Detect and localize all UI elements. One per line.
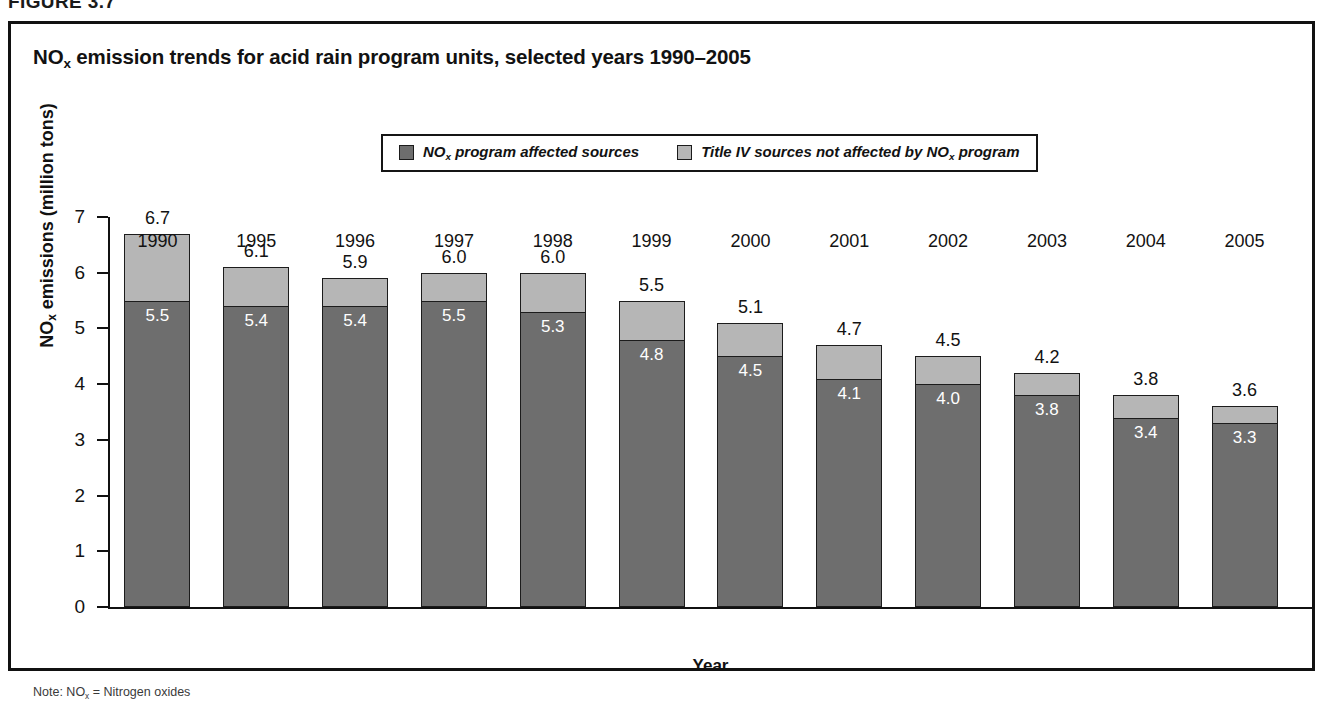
bar-segment-value-label: 5.4 [224,311,288,331]
y-axis-tick-mark [97,550,108,552]
bar-segment-value-label: 3.3 [1213,428,1277,448]
bar-stack[interactable]: 3.4 [1113,395,1179,607]
legend-item-title-iv-sources[interactable]: Title IV sources not affected by NOx pro… [677,143,1019,162]
chart-legend: NOx program affected sources Title IV so… [381,134,1038,172]
bar-segment-title-iv[interactable] [520,273,586,312]
bar-segment-nox-program[interactable]: 5.4 [223,306,289,607]
bar-segment-value-label: 4.8 [620,345,684,365]
legend-swatch-dark-icon [399,145,414,160]
x-axis-tick-label: 2002 [895,231,1001,252]
figure-number: FIGURE 3.7 [8,0,115,13]
bar-segment-nox-program[interactable]: 3.4 [1113,418,1179,607]
chart-title-suffix: emission trends for acid rain program un… [71,45,751,68]
bar-stack[interactable]: 4.5 [717,323,783,607]
legend-label-series-1: NOx program affected sources [423,143,639,162]
bar-segment-title-iv[interactable] [915,356,981,384]
bar-segment-value-label: 4.5 [718,361,782,381]
x-axis-tick-label: 1996 [302,231,408,252]
x-axis-tick-label: 2003 [994,231,1100,252]
legend-swatch-light-icon [677,145,692,160]
legend-item-nox-program-affected-sources[interactable]: NOx program affected sources [399,143,639,162]
bar-stack[interactable]: 4.8 [619,301,685,607]
bar-segment-title-iv[interactable] [1014,373,1080,395]
bar-stack[interactable]: 4.1 [816,345,882,607]
y-axis-tick-label: 6 [23,262,85,284]
bar-segment-nox-program[interactable]: 4.5 [717,356,783,607]
bar-stack[interactable]: 5.3 [520,273,586,607]
bar-group[interactable]: 4.04.52002 [915,217,981,607]
bar-group[interactable]: 4.55.12000 [717,217,783,607]
bar-segment-title-iv[interactable] [322,278,388,306]
bar-segment-title-iv[interactable] [717,323,783,356]
bar-group[interactable]: 3.43.82004 [1113,217,1179,607]
bar-group[interactable]: 5.46.11995 [223,217,289,607]
bar-group[interactable]: 4.14.72001 [816,217,882,607]
bar-stack[interactable]: 3.3 [1212,406,1278,607]
legend-label-series-1-suffix: program affected sources [451,143,639,160]
bar-group[interactable]: 5.56.01997 [421,217,487,607]
bar-total-label: 3.8 [1097,369,1195,390]
bar-segment-nox-program[interactable]: 4.1 [816,379,882,607]
bar-segment-title-iv[interactable] [619,301,685,340]
bar-group[interactable]: 4.85.51999 [619,217,685,607]
legend-label-series-2-suffix: program [954,143,1019,160]
bar-group[interactable]: 3.33.62005 [1212,217,1278,607]
bar-segment-value-label: 3.8 [1015,400,1079,420]
bar-segment-nox-program[interactable]: 4.8 [619,340,685,607]
bar-segment-value-label: 5.5 [125,306,189,326]
bar-segment-value-label: 5.4 [323,311,387,331]
y-axis-tick-label: 0 [23,596,85,618]
bar-segment-nox-program[interactable]: 5.5 [421,301,487,607]
chart-title-subscript: x [63,56,70,71]
y-axis-tick-label: 3 [23,429,85,451]
bar-segment-title-iv[interactable] [223,267,289,306]
bar-total-label: 4.2 [998,347,1096,368]
bar-total-label: 5.9 [306,252,404,273]
bar-segment-title-iv[interactable] [421,273,487,301]
bar-group[interactable]: 3.84.22003 [1014,217,1080,607]
bar-stack[interactable]: 4.0 [915,356,981,607]
bar-total-label: 5.5 [603,275,701,296]
y-axis-tick-mark [97,495,108,497]
bar-segment-title-iv[interactable] [1113,395,1179,417]
plot-area: 5.56.719905.46.119955.45.919965.56.01997… [108,217,1294,607]
x-axis-tick-label: 2005 [1192,231,1298,252]
bar-segment-nox-program[interactable]: 5.3 [520,312,586,607]
bar-group[interactable]: 5.45.91996 [322,217,388,607]
bar-total-label: 4.7 [800,319,898,340]
bar-segment-title-iv[interactable] [816,345,882,378]
bar-stack[interactable]: 5.5 [421,273,487,607]
bar-stack[interactable]: 5.4 [223,267,289,607]
bar-stack[interactable]: 3.8 [1014,373,1080,607]
bar-segment-value-label: 5.5 [422,306,486,326]
y-axis-tick-label: 1 [23,540,85,562]
y-axis-tick-mark [97,216,108,218]
y-axis-tick-mark [97,439,108,441]
bar-stack[interactable]: 5.4 [322,278,388,607]
y-axis-tick-mark [97,383,108,385]
bar-total-label: 3.6 [1196,380,1294,401]
y-axis-tick-mark [97,606,108,608]
figure-panel: NOx emission trends for acid rain progra… [8,21,1315,671]
bar-segment-nox-program[interactable]: 5.5 [124,301,190,607]
bar-group[interactable]: 5.36.01998 [520,217,586,607]
bar-stack[interactable]: 5.5 [124,234,190,607]
y-axis-tick-label: 5 [23,317,85,339]
legend-label-series-1-prefix: NO [423,143,446,160]
y-axis-tick-label: 7 [23,206,85,228]
y-axis-tick-label: 2 [23,485,85,507]
x-axis-tick-label: 1997 [401,231,507,252]
bar-total-label: 5.1 [701,297,799,318]
bar-segment-nox-program[interactable]: 4.0 [915,384,981,607]
bar-segment-title-iv[interactable] [1212,406,1278,423]
bar-group[interactable]: 5.56.71990 [124,217,190,607]
bar-segment-value-label: 4.1 [817,384,881,404]
bar-segment-nox-program[interactable]: 5.4 [322,306,388,607]
x-axis-tick-label: 1998 [500,231,606,252]
x-axis-line [108,607,1313,609]
bar-segment-nox-program[interactable]: 3.8 [1014,395,1080,607]
figure-note: Note: NOx = Nitrogen oxides [33,685,190,701]
y-axis-tick-label: 4 [23,373,85,395]
bar-segment-nox-program[interactable]: 3.3 [1212,423,1278,607]
bar-total-label: 4.5 [899,330,997,351]
